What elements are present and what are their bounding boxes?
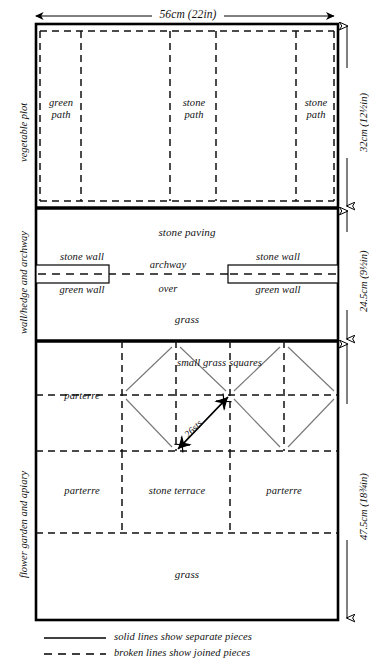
label-grass-upper: grass — [157, 313, 217, 325]
height-label-section1: 32cm (12½in) — [358, 93, 369, 152]
left-wall-shape — [36, 265, 109, 283]
height-label-section2: 24.5cm (9½in) — [358, 250, 369, 312]
side-label-vegetable-plot: vegetable plot — [18, 103, 29, 162]
label-right-green-wall: green wall — [236, 284, 320, 296]
label-archway-over: over — [137, 283, 199, 295]
label-left-stone-wall: stone wall — [42, 251, 122, 263]
cell-label-green-path: green path — [41, 97, 81, 121]
width-dimension-label: 56cm (22in) — [146, 8, 230, 21]
label-grass-lower: grass — [157, 568, 217, 580]
label-archway: archway — [137, 259, 199, 271]
label-right-stone-wall: stone wall — [236, 251, 320, 263]
label-parterre-left-upper: parterre — [46, 390, 118, 402]
label-parterre-left-lower: parterre — [46, 485, 118, 497]
label-parterre-right-lower: parterre — [248, 485, 320, 497]
side-label-flower-garden-apiary: flower garden and apiary — [18, 471, 29, 578]
height-label-section3: 47.5cm (18¾in) — [358, 473, 369, 540]
side-label-wall-hedge-archway: wall/hedge and archway — [18, 231, 29, 334]
right-wall-shape — [228, 265, 338, 283]
legend-text-solid: solid lines show separate pieces — [114, 631, 344, 643]
cell-label-stone-path-right: stone path — [296, 97, 336, 121]
cell-label-stone-path-middle: stone path — [172, 97, 216, 121]
legend-text-broken: broken lines show joined pieces — [114, 647, 344, 659]
label-left-green-wall: green wall — [42, 284, 122, 296]
label-stone-paving: stone paving — [127, 226, 247, 238]
label-stone-terrace: stone terrace — [130, 485, 224, 497]
label-small-grass-squares: small grass squares — [177, 357, 313, 369]
